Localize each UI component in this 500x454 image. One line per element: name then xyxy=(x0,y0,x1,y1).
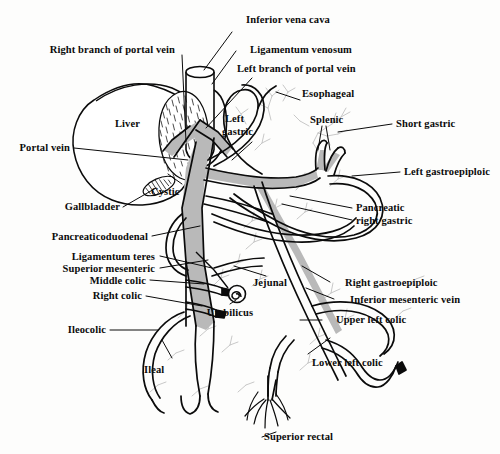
leader-ligamentum-venosum xyxy=(212,51,236,84)
label-upper-left-colic: Upper left colic xyxy=(336,314,406,325)
leader-right-branch-portal xyxy=(182,55,186,142)
leader-right-gastroepiploic xyxy=(302,266,330,282)
label-right-branch-of-portal-vein: Right branch of portal vein xyxy=(50,44,175,55)
leader-splenic-2 xyxy=(326,126,330,150)
leader-umbilicus xyxy=(230,300,236,304)
leader-ileal xyxy=(162,340,172,358)
label-jejunal: Jejunal xyxy=(253,277,287,288)
label-portal-vein: Portal vein xyxy=(20,142,70,153)
leader-right-colic xyxy=(146,296,202,306)
leader-inferior-mesenteric-vein xyxy=(306,288,334,299)
label-left-gastric-line2: gastric xyxy=(222,126,253,137)
label-left-gastroepiploic: Left gastroepiploic xyxy=(404,166,490,177)
label-short-gastric: Short gastric xyxy=(396,118,455,129)
leader-left-gastroepiploic xyxy=(352,172,400,176)
label-lower-left-colic: Lower left colic xyxy=(312,357,383,368)
leader-portal-vein xyxy=(74,148,188,160)
label-inferior-mesenteric-vein: Inferior mesenteric vein xyxy=(350,294,460,305)
label-esophageal: Esophageal xyxy=(302,88,354,99)
label-middle-colic: Middle colic xyxy=(90,275,146,286)
label-left-branch-of-portal-vein: Left branch of portal vein xyxy=(237,63,356,74)
leader-esophageal xyxy=(276,92,300,100)
leader-pancreaticoduodenal xyxy=(152,226,200,236)
leader-inferior-vena-cava xyxy=(204,32,232,70)
label-pancreaticoduodenal: Pancreaticoduodenal xyxy=(52,231,148,242)
leader-lower-left-colic xyxy=(308,338,330,354)
label-right-colic: Right colic xyxy=(93,290,142,301)
label-gallbladder: Gallbladder xyxy=(65,201,120,212)
leader-short-gastric xyxy=(338,124,392,132)
leader-splenic-1 xyxy=(318,126,322,150)
label-ligamentum-venosum: Ligamentum venosum xyxy=(250,44,352,55)
label-ileal: Ileal xyxy=(144,364,164,375)
label-left-gastric-line1: Left xyxy=(225,113,244,124)
label-inferior-vena-cava: Inferior vena cava xyxy=(246,14,330,25)
label-superior-rectal: Superior rectal xyxy=(264,431,333,442)
label-umbilicus: Umbilicus xyxy=(207,307,253,318)
label-splenic: Splenic xyxy=(310,114,343,125)
label-cystic: Cystic xyxy=(151,186,180,197)
leader-cystic xyxy=(168,174,182,184)
label-superior-mesenteric: Superior mesenteric xyxy=(63,263,155,274)
label-liver: Liver xyxy=(115,118,140,129)
leader-jejunal xyxy=(234,266,266,276)
leader-pancreatic xyxy=(290,196,352,208)
label-ligamentum-teres: Ligamentum teres xyxy=(72,251,155,262)
leader-middle-colic xyxy=(150,280,204,284)
label-right-gastroepiploic: Right gastroepiploic xyxy=(345,277,438,288)
label-right-gastric: right gastric xyxy=(356,215,412,226)
label-ileocolic: Ileocolic xyxy=(68,324,106,335)
label-pancreatic: Pancreatic xyxy=(356,202,405,213)
anatomical-diagram-portal-venous-system: Inferior vena cava Ligamentum venosum Le… xyxy=(0,0,500,454)
leader-left-gastric xyxy=(232,142,252,160)
